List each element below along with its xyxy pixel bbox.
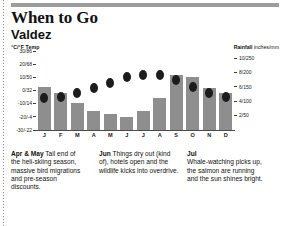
left-axis-tick-label: 0/32	[22, 87, 32, 93]
chart-month-column	[203, 51, 216, 130]
temperature-point	[222, 92, 230, 102]
temperature-point	[57, 92, 65, 102]
month-label: O	[186, 132, 199, 138]
right-axis-unit: inches/mm	[254, 44, 279, 50]
climate-chart: 30/8620/6810/500/32-10/14-20/-4-30/-22 1…	[11, 51, 271, 137]
right-axis-tick-label: 10/250	[239, 55, 254, 61]
chart-month-column	[219, 51, 232, 130]
month-label: M	[71, 132, 84, 138]
season-note-text: Things dry out (kind of), hotels open an…	[99, 150, 179, 174]
month-label: F	[54, 132, 67, 138]
chart-month-column	[38, 51, 51, 130]
right-axis-tick-mark	[234, 101, 237, 102]
rainfall-bar	[120, 117, 133, 130]
month-label: A	[153, 132, 166, 138]
chart-month-column	[87, 51, 100, 130]
season-note-lead: Jun	[99, 150, 111, 157]
month-label: S	[170, 132, 183, 138]
chart-month-column	[153, 51, 166, 130]
right-axis-tick-mark	[234, 86, 237, 87]
temperature-point	[40, 93, 48, 103]
chart-month-column	[137, 51, 150, 130]
season-note-lead: Apr & May	[11, 150, 44, 157]
month-label: J	[38, 132, 51, 138]
left-axis-tick-label: -30/-22	[16, 127, 32, 133]
rainfall-bar	[137, 111, 150, 130]
chart-month-column	[170, 51, 183, 130]
season-note-body: Apr & May Tail end of the heli-skiing se…	[11, 150, 85, 191]
temperature-point	[123, 72, 131, 82]
season-note-lead: Jul	[187, 150, 197, 157]
chart-month-column	[186, 51, 199, 130]
season-notes: Apr & May Tail end of the heli-skiing se…	[11, 150, 281, 226]
temperature-point	[189, 82, 197, 92]
right-axis-tick-label: 2/50	[239, 112, 249, 118]
right-axis-tick-label: 8/200	[239, 69, 252, 75]
season-note-text: Whale-watching picks up, the salmon are …	[187, 158, 263, 182]
guidebook-page: When to Go Valdez °C/°F Temp Rainfall in…	[0, 0, 281, 226]
right-axis-name: Rainfall	[234, 44, 253, 50]
season-note-panel: JulWhale-watching picks up, the salmon a…	[187, 150, 265, 226]
page-subtitle: Valdez	[11, 28, 51, 42]
left-axis-tick-label: 30/86	[19, 48, 32, 54]
rainfall-bar	[71, 103, 84, 130]
temperature-point	[205, 88, 213, 98]
temperature-point	[106, 78, 114, 88]
page-title: When to Go	[11, 9, 98, 27]
month-label: J	[137, 132, 150, 138]
season-note-body: Jun Things dry out (kind of), hotels ope…	[99, 150, 179, 175]
season-note-body: JulWhale-watching picks up, the salmon a…	[187, 150, 265, 183]
chart-month-column	[104, 51, 117, 130]
month-label: A	[87, 132, 100, 138]
temperature-point	[156, 70, 164, 80]
chart-month-column	[54, 51, 67, 130]
month-label: N	[203, 132, 216, 138]
month-label: D	[219, 132, 232, 138]
temperature-point	[139, 70, 147, 80]
chart-month-labels: JFMAMJJASOND	[36, 132, 234, 142]
chart-month-column	[120, 51, 133, 130]
section-top-rule	[11, 3, 279, 7]
left-axis-tick-label: 20/68	[19, 61, 32, 67]
rainfall-bar	[153, 98, 166, 130]
season-note-panel: Apr & May Tail end of the heli-skiing se…	[11, 150, 85, 226]
rainfall-bar	[104, 114, 117, 130]
right-axis-tick-label: 6/150	[239, 84, 252, 90]
temperature-point	[73, 88, 81, 98]
temperature-point	[90, 83, 98, 93]
right-axis-tick-mark	[234, 58, 237, 59]
chart-bars-and-points	[36, 51, 234, 130]
left-axis-tick-label: -20/-4	[19, 114, 32, 120]
rainfall-bar	[87, 111, 100, 130]
month-label: M	[104, 132, 117, 138]
right-axis-heading: Rainfall inches/mm	[234, 44, 279, 50]
temperature-point	[172, 75, 180, 85]
right-axis-tick-mark	[234, 72, 237, 73]
season-note-panel: Jun Things dry out (kind of), hotels ope…	[99, 150, 179, 226]
page-margin-dotted-rule	[3, 0, 4, 226]
left-axis-tick-label: 10/50	[19, 74, 32, 80]
right-axis-tick-mark	[234, 115, 237, 116]
month-label: J	[120, 132, 133, 138]
chart-month-column	[71, 51, 84, 130]
left-axis-tick-label: -10/14	[18, 100, 32, 106]
right-axis-tick-label: 4/100	[239, 98, 252, 104]
